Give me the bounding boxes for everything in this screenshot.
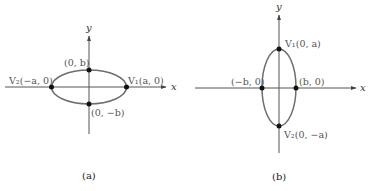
label-top-a: (0, b): [64, 57, 90, 68]
figure-a: y x V₂(−a, 0) V₁(a, 0) (0, b) (0, −b) (a…: [5, 22, 177, 181]
point-v1-b: [277, 47, 282, 52]
ellipse-diagrams: y x V₂(−a, 0) V₁(a, 0) (0, b) (0, −b) (a…: [0, 0, 369, 191]
label-v1-b: V₁(0, a): [284, 38, 321, 49]
x-axis-label-a: x: [171, 81, 177, 92]
point-v2-b: [277, 124, 282, 129]
caption-a: (a): [82, 170, 96, 181]
caption-b: (b): [272, 171, 286, 182]
figure-b: y x V₁(0, a) V₂(0, −a) (−b, 0) (b, 0) (b…: [195, 1, 366, 182]
y-axis-label-a: y: [85, 22, 92, 33]
label-v2-b: V₂(0, −a): [283, 129, 328, 140]
point-bottom-a: [87, 102, 92, 107]
label-right-b: (b, 0): [299, 76, 325, 87]
label-left-b: (−b, 0): [231, 76, 265, 87]
point-top-a: [87, 68, 92, 73]
point-right-b: [294, 86, 299, 91]
x-axis-label-b: x: [360, 82, 366, 93]
label-v2-a: V₂(−a, 0): [8, 75, 53, 86]
label-v1-a: V₁(a, 0): [127, 75, 164, 86]
label-bottom-a: (0, −b): [91, 107, 125, 118]
y-axis-label-b: y: [275, 1, 282, 12]
